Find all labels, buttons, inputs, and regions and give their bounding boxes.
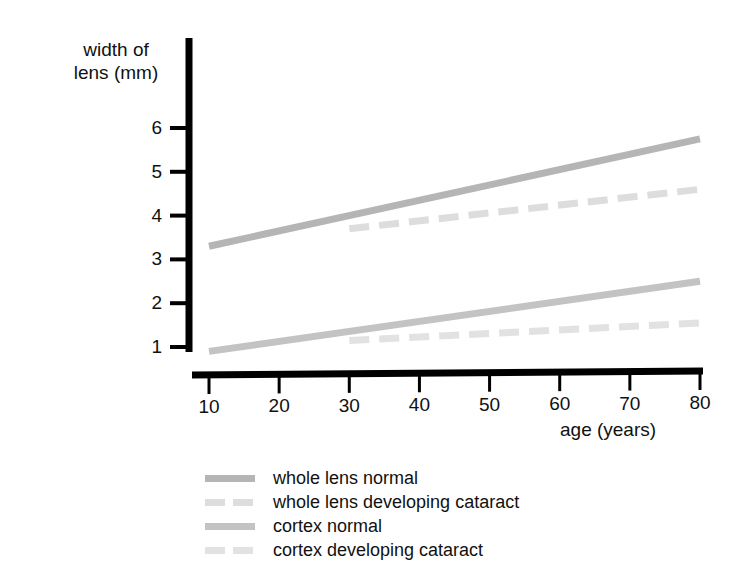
x-tick-label-10: 10 xyxy=(189,396,229,418)
chart-legend: whole lens normalwhole lens developing c… xyxy=(205,466,665,562)
y-tick-label-3: 3 xyxy=(132,248,162,270)
legend-swatch-solid-mid-gray xyxy=(205,475,255,482)
legend-swatch-solid-mid-gray xyxy=(205,523,255,530)
legend-item-cortex-developing-cataract: cortex developing cataract xyxy=(205,538,665,562)
x-tick-label-40: 40 xyxy=(399,394,439,416)
y-tick-label-1: 1 xyxy=(132,336,162,358)
legend-item-whole-lens-normal: whole lens normal xyxy=(205,466,665,490)
y-tick-label-2: 2 xyxy=(132,292,162,314)
y-tick-label-6: 6 xyxy=(132,117,162,139)
legend-label: cortex developing cataract xyxy=(273,540,483,561)
y-tick-label-4: 4 xyxy=(132,205,162,227)
series-line-cortex-normal xyxy=(209,281,700,351)
x-tick-label-30: 30 xyxy=(329,395,369,417)
chart-figure: width of lens (mm) age (years) 123456 10… xyxy=(0,0,749,587)
series-line-whole-lens-developing-cataract xyxy=(349,189,700,228)
legend-swatch-dashed-light-gray xyxy=(205,499,255,506)
legend-label: whole lens developing cataract xyxy=(273,492,519,513)
legend-swatch-dashed-light-gray xyxy=(205,547,255,554)
legend-label: whole lens normal xyxy=(273,468,418,489)
x-tick-label-70: 70 xyxy=(610,393,650,415)
legend-label: cortex normal xyxy=(273,516,382,537)
x-tick-label-60: 60 xyxy=(540,393,580,415)
legend-item-whole-lens-developing-cataract: whole lens developing cataract xyxy=(205,490,665,514)
x-tick-label-80: 80 xyxy=(680,392,720,414)
legend-item-cortex-normal: cortex normal xyxy=(205,514,665,538)
x-tick-label-50: 50 xyxy=(470,394,510,416)
data-series-layer xyxy=(209,139,700,351)
x-tick-label-20: 20 xyxy=(259,395,299,417)
y-tick-label-5: 5 xyxy=(132,161,162,183)
series-line-whole-lens-normal xyxy=(209,139,700,246)
